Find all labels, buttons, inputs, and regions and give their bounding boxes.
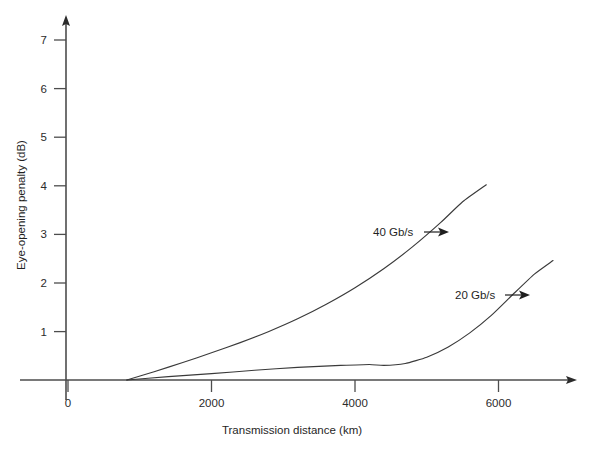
x-tick-label: 2000: [199, 397, 225, 409]
chart-background: [0, 0, 590, 452]
annotation-label-20gbs: 20 Gb/s: [455, 289, 496, 301]
y-tick-label: 4: [41, 180, 48, 192]
y-tick-label: 3: [41, 228, 47, 240]
x-tick-label: 0: [65, 397, 71, 409]
x-tick-label: 6000: [486, 397, 512, 409]
y-tick-label: 7: [41, 34, 47, 46]
y-tick-label: 1: [41, 326, 47, 338]
annotation-label-40gbs: 40 Gb/s: [373, 226, 414, 238]
y-axis-title: Eye-opening penalty (dB): [15, 140, 27, 270]
x-axis-title: Transmission distance (km): [222, 424, 362, 436]
x-tick-label: 4000: [342, 397, 368, 409]
y-tick-label: 2: [41, 277, 47, 289]
y-tick-label: 5: [41, 131, 47, 143]
chart-figure: 7 6 5 4 3 2 1 0 2000 4000 6000: [0, 0, 590, 452]
chart-svg: 7 6 5 4 3 2 1 0 2000 4000 6000: [0, 0, 590, 452]
y-tick-label: 6: [41, 83, 47, 95]
